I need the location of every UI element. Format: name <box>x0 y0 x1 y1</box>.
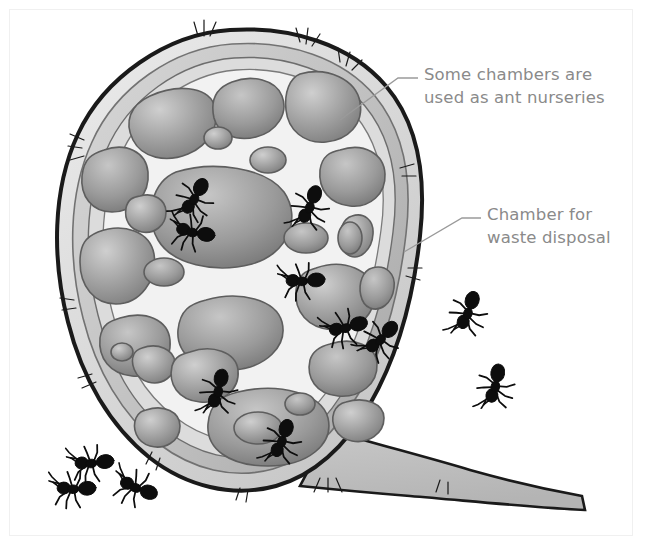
figure-page: Some chambers are used as ant nurseries … <box>0 0 668 552</box>
callout-waste-line1: Chamber for <box>487 205 592 224</box>
ants-outside-right <box>443 286 518 414</box>
callout-nursery-line1: Some chambers are <box>424 65 592 84</box>
callout-nursery-line2: used as ant nurseries <box>424 88 605 107</box>
callout-nursery: Some chambers are used as ant nurseries <box>424 63 605 110</box>
callout-waste: Chamber for waste disposal <box>487 203 611 250</box>
callout-waste-line2: waste disposal <box>487 228 611 247</box>
